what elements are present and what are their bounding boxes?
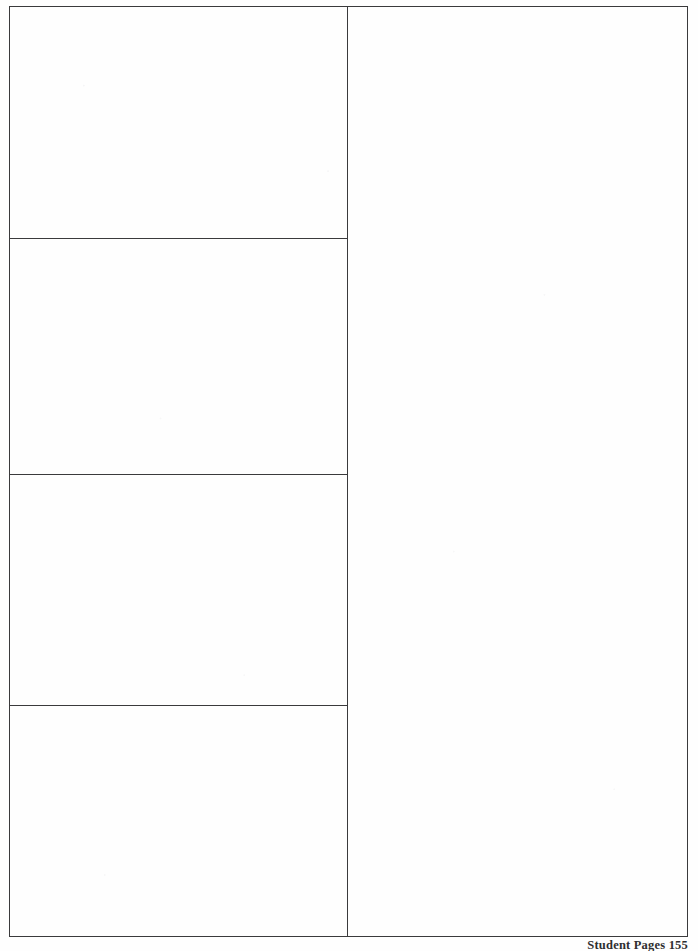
document-page: Student Pages 155: [0, 0, 698, 951]
answer-cell-2[interactable]: [10, 239, 347, 475]
page-footer-label: Student Pages 155: [0, 938, 688, 951]
answer-cell-3[interactable]: [10, 475, 347, 706]
answer-cell-1[interactable]: [10, 7, 347, 239]
worksheet-left-column: [10, 7, 348, 936]
worksheet-table: [9, 6, 688, 937]
answer-cell-4[interactable]: [10, 706, 347, 936]
worksheet-right-work-area[interactable]: [348, 7, 687, 936]
